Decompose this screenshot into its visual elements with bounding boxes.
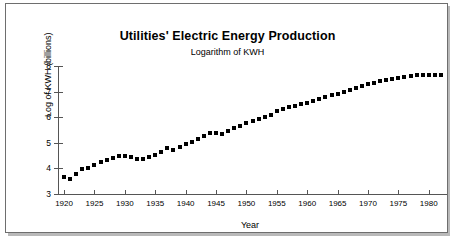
x-tick-label: 1920 bbox=[47, 199, 81, 208]
data-point bbox=[99, 160, 103, 164]
data-point bbox=[251, 119, 255, 123]
data-point bbox=[287, 105, 291, 109]
x-tick bbox=[186, 190, 187, 195]
y-axis-line bbox=[58, 66, 59, 194]
x-tick-label: 1945 bbox=[199, 199, 233, 208]
y-axis-title: Log of KWH (billions) bbox=[43, 32, 53, 117]
data-point bbox=[159, 150, 163, 154]
data-point bbox=[153, 153, 157, 157]
data-point bbox=[281, 107, 285, 111]
data-point bbox=[92, 163, 96, 167]
x-tick bbox=[125, 190, 126, 195]
data-point bbox=[305, 101, 309, 105]
y-tick-inner bbox=[59, 92, 63, 93]
x-tick bbox=[94, 190, 95, 195]
x-tick-label: 1925 bbox=[77, 199, 111, 208]
data-point bbox=[336, 92, 340, 96]
x-tick-label: 1930 bbox=[108, 199, 142, 208]
plot-area: 345678 192019251930193519401945195019551… bbox=[53, 61, 447, 199]
x-tick-label: 1960 bbox=[290, 199, 324, 208]
y-tick-label: 4 bbox=[29, 164, 51, 172]
data-point bbox=[384, 78, 388, 82]
data-point bbox=[427, 73, 431, 77]
data-point bbox=[123, 154, 127, 158]
data-point bbox=[232, 126, 236, 130]
data-point bbox=[433, 73, 437, 77]
y-tick-inner bbox=[59, 143, 63, 144]
data-point bbox=[421, 73, 425, 77]
data-point bbox=[165, 146, 169, 150]
data-point bbox=[238, 124, 242, 128]
data-point bbox=[342, 90, 346, 94]
y-tick-label: 5 bbox=[29, 139, 51, 147]
x-tick-label: 1935 bbox=[138, 199, 172, 208]
data-point bbox=[409, 74, 413, 78]
data-point bbox=[135, 157, 139, 161]
data-point bbox=[311, 99, 315, 103]
figure-canvas: Utilities' Electric Energy Production Lo… bbox=[0, 0, 455, 249]
data-point bbox=[330, 93, 334, 97]
x-tick bbox=[429, 190, 430, 195]
data-point bbox=[390, 77, 394, 81]
data-point bbox=[439, 73, 443, 77]
data-point bbox=[68, 177, 72, 181]
data-point bbox=[299, 102, 303, 106]
x-axis-line bbox=[58, 194, 447, 195]
data-point bbox=[190, 140, 194, 144]
x-tick-label: 1980 bbox=[412, 199, 446, 208]
data-point bbox=[105, 158, 109, 162]
data-point bbox=[147, 155, 151, 159]
x-tick bbox=[338, 190, 339, 195]
data-point bbox=[196, 137, 200, 141]
x-axis-title: Year bbox=[53, 220, 447, 230]
y-tick-inner bbox=[59, 168, 63, 169]
x-tick-label: 1950 bbox=[229, 199, 263, 208]
data-point bbox=[269, 113, 273, 117]
data-point bbox=[354, 86, 358, 90]
data-point bbox=[378, 79, 382, 83]
chart-subtitle: Logarithm of KWH bbox=[6, 47, 449, 57]
x-tick-label: 1955 bbox=[260, 199, 294, 208]
x-tick-label: 1970 bbox=[351, 199, 385, 208]
data-point bbox=[171, 148, 175, 152]
data-point bbox=[214, 131, 218, 135]
data-point bbox=[184, 142, 188, 146]
data-point bbox=[402, 75, 406, 79]
data-point bbox=[293, 104, 297, 108]
x-tick bbox=[216, 190, 217, 195]
x-tick bbox=[368, 190, 369, 195]
y-tick-inner bbox=[59, 66, 63, 67]
data-point bbox=[348, 88, 352, 92]
y-tick-inner bbox=[59, 117, 63, 118]
data-point bbox=[202, 134, 206, 138]
data-point bbox=[208, 131, 212, 135]
chart-title: Utilities' Electric Energy Production bbox=[6, 29, 449, 43]
data-point bbox=[111, 156, 115, 160]
data-point bbox=[396, 76, 400, 80]
data-point bbox=[80, 167, 84, 171]
x-tick-label: 1940 bbox=[169, 199, 203, 208]
data-point bbox=[141, 157, 145, 161]
x-tick bbox=[307, 190, 308, 195]
data-point bbox=[129, 155, 133, 159]
chart-frame: Utilities' Electric Energy Production Lo… bbox=[5, 3, 448, 233]
data-point bbox=[257, 117, 261, 121]
data-point bbox=[117, 154, 121, 158]
x-tick bbox=[398, 190, 399, 195]
data-point bbox=[275, 109, 279, 113]
data-point bbox=[317, 97, 321, 101]
data-point bbox=[323, 95, 327, 99]
data-point bbox=[226, 129, 230, 133]
data-point bbox=[220, 132, 224, 136]
data-point bbox=[415, 73, 419, 77]
y-tick-label: 3 bbox=[29, 190, 51, 198]
data-point bbox=[244, 121, 248, 125]
x-tick bbox=[277, 190, 278, 195]
data-point bbox=[263, 115, 267, 119]
data-point bbox=[86, 166, 90, 170]
y-tick-inner bbox=[59, 194, 63, 195]
x-tick bbox=[246, 190, 247, 195]
data-point bbox=[372, 81, 376, 85]
data-point bbox=[366, 82, 370, 86]
x-tick-label: 1965 bbox=[321, 199, 355, 208]
